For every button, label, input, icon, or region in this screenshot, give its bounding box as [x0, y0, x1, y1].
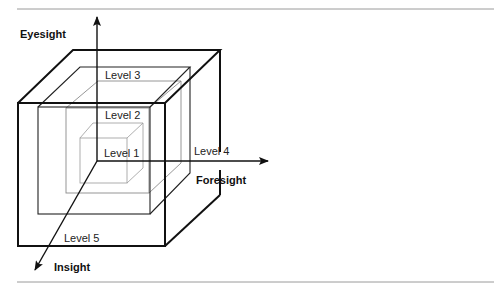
insight-label: Insight [54, 262, 90, 273]
level-2-cube [66, 81, 181, 193]
level-3-cube [38, 67, 190, 214]
foresight-label: Foresight [196, 175, 246, 186]
level-1-label: Level 1 [104, 148, 139, 159]
level-5-label: Level 5 [64, 233, 99, 244]
level-3-label: Level 3 [105, 70, 140, 81]
nested-cubes-diagram [0, 0, 504, 294]
eyesight-label: Eyesight [20, 29, 66, 40]
level-4-label: Level 4 [194, 146, 229, 157]
level-2-label: Level 2 [105, 110, 140, 121]
